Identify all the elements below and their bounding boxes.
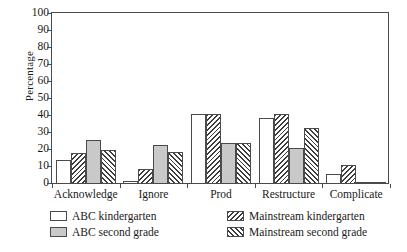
bar-ignore-abc-kindergarten — [123, 181, 138, 184]
x-tick-label-acknowledge: Acknowledge — [54, 188, 118, 200]
y-tick-label-90: 90 — [0, 24, 49, 36]
bar-acknowledge-abc-second-grade — [86, 140, 101, 184]
hatch-forwardslash-swatch — [227, 227, 244, 237]
bar-prod-abc-second-grade — [221, 143, 236, 184]
x-tick-label-prod: Prod — [210, 188, 232, 200]
bar-group-ignore — [120, 13, 188, 184]
bar-prod-mainstream-kindergarten — [206, 114, 221, 184]
y-tick-label-50: 50 — [0, 92, 49, 104]
x-tick-mark-1 — [187, 184, 188, 188]
x-tick-mark-4 — [390, 184, 391, 188]
x-tick-label-restructure: Restructure — [262, 188, 315, 200]
bar-ignore-abc-second-grade — [153, 145, 168, 184]
y-tick-label-20: 20 — [0, 143, 49, 155]
x-tick-label-complicate: Complicate — [330, 188, 383, 200]
bar-complicate-mainstream-second-grade — [371, 182, 386, 184]
bar-ignore-mainstream-kindergarten — [138, 169, 153, 184]
chart-legend: ABC kindergartenABC second gradeMainstre… — [50, 210, 390, 244]
bar-restructure-abc-kindergarten — [259, 118, 274, 184]
x-tick-mark-2 — [255, 184, 256, 188]
legend-item-mainstream-second-grade: Mainstream second grade — [227, 226, 367, 238]
bar-complicate-abc-second-grade — [356, 182, 371, 184]
bar-prod-abc-kindergarten — [191, 114, 206, 184]
y-tick-label-40: 40 — [0, 109, 49, 121]
bar-complicate-abc-kindergarten — [326, 174, 341, 184]
y-tick-label-10: 10 — [0, 160, 49, 172]
legend-item-abc-kindergarten: ABC kindergarten — [50, 210, 156, 222]
bar-acknowledge-abc-kindergarten — [56, 160, 71, 184]
x-tick-mark-0 — [120, 184, 121, 188]
hatch-backslash-swatch — [227, 211, 244, 221]
y-tick-label-0: 0 — [0, 177, 49, 189]
x-tick-mark-3 — [322, 184, 323, 188]
x-tick-mark-origin — [52, 184, 53, 188]
y-tick-label-80: 80 — [0, 41, 49, 53]
bar-restructure-abc-second-grade — [289, 148, 304, 184]
bar-group-restructure — [255, 13, 323, 184]
legend-label: Mainstream kindergarten — [249, 210, 365, 222]
bar-complicate-mainstream-kindergarten — [341, 165, 356, 184]
y-tick-label-70: 70 — [0, 58, 49, 70]
legend-item-mainstream-kindergarten: Mainstream kindergarten — [227, 210, 365, 222]
y-tick-label-100: 100 — [0, 7, 49, 19]
bar-acknowledge-mainstream-kindergarten — [71, 153, 86, 184]
legend-item-abc-second-grade: ABC second grade — [50, 226, 159, 238]
legend-label: ABC second grade — [72, 226, 159, 238]
bar-group-prod — [187, 13, 255, 184]
bar-group-complicate — [322, 13, 390, 184]
y-tick-label-30: 30 — [0, 126, 49, 138]
grouped-bar-chart: Percentage 1009080706050403020100 Acknow… — [0, 0, 407, 252]
legend-label: ABC kindergarten — [72, 210, 156, 222]
x-tick-label-ignore: Ignore — [138, 188, 168, 200]
gray-swatch — [50, 227, 67, 237]
bar-group-acknowledge — [52, 13, 120, 184]
bar-restructure-mainstream-second-grade — [304, 128, 319, 184]
legend-label: Mainstream second grade — [249, 226, 367, 238]
bars-layer — [52, 13, 388, 184]
bar-restructure-mainstream-kindergarten — [274, 114, 289, 184]
white-swatch — [50, 211, 67, 221]
y-tick-label-60: 60 — [0, 75, 49, 87]
bar-ignore-mainstream-second-grade — [168, 152, 183, 184]
bar-prod-mainstream-second-grade — [236, 143, 251, 184]
bar-acknowledge-mainstream-second-grade — [101, 150, 116, 184]
